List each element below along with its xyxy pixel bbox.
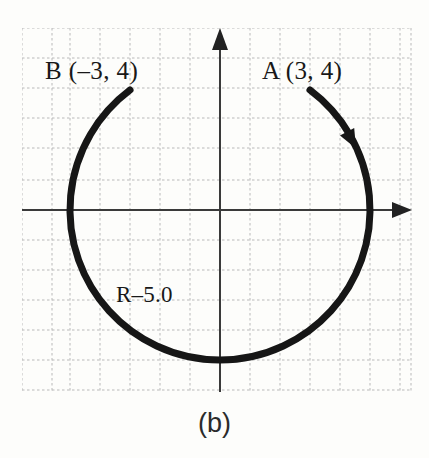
- point-b-label: B (–3, 4): [45, 58, 138, 83]
- y-axis-arrowhead: [212, 28, 228, 50]
- radius-label: R–5.0: [116, 283, 173, 306]
- figure-caption: (b): [0, 408, 429, 439]
- x-axis-arrowhead: [392, 202, 412, 218]
- point-a-label: A (3, 4): [262, 58, 342, 83]
- figure-container: B (–3, 4) A (3, 4) R–5.0 (b): [0, 0, 429, 458]
